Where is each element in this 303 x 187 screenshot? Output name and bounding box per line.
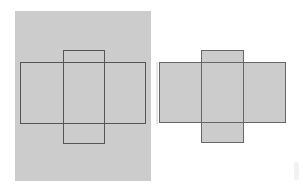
diagram-canvas <box>0 0 303 187</box>
right-sheet-edge <box>156 62 158 124</box>
scan-artifact <box>294 162 299 180</box>
left-tall-rectangle-outline <box>63 50 105 144</box>
right-tall-rectangle-overlay-outline <box>201 50 244 143</box>
